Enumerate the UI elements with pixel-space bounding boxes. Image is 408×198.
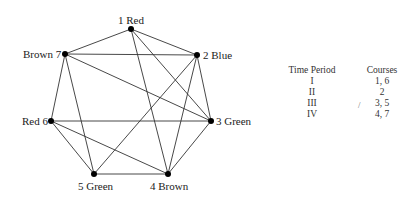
period-cell: II — [272, 87, 352, 98]
table-row: II 2 — [272, 87, 408, 98]
edge-2-3 — [197, 55, 211, 121]
node-3 — [208, 118, 214, 124]
node-6 — [48, 118, 54, 124]
edge-6-4 — [51, 121, 168, 174]
node-5 — [91, 171, 97, 177]
graph-nodes — [48, 26, 214, 177]
courses-cell: 2 — [352, 87, 408, 98]
node-7 — [62, 51, 68, 57]
table-row: III 3, 5 — [272, 98, 408, 109]
node-1 — [128, 26, 134, 32]
header-courses: Courses — [352, 65, 408, 76]
node-label-1: 1 Red — [118, 14, 144, 26]
period-cell: III — [272, 98, 352, 109]
graph-edges — [51, 29, 211, 174]
node-label-7: Brown 7 — [23, 48, 61, 60]
table-row: I 1, 6 — [272, 76, 408, 87]
edge-7-6 — [51, 54, 65, 121]
edge-2-5 — [94, 55, 197, 174]
table-header-row: Time Period Courses — [272, 65, 408, 76]
courses-cell: 4, 7 — [352, 109, 408, 120]
node-label-2: 2 Blue — [203, 49, 232, 61]
node-label-3: 3 Green — [216, 115, 251, 127]
node-4 — [165, 171, 171, 177]
node-2 — [194, 52, 200, 58]
courses-cell: 1, 6 — [352, 76, 408, 87]
edge-1-7 — [65, 29, 131, 54]
header-time-period: Time Period — [272, 65, 352, 76]
schedule-table: Time Period Courses I 1, 6 II 2 III 3, 5… — [272, 65, 408, 120]
edge-7-2 — [65, 54, 197, 55]
node-label-4: 4 Brown — [150, 180, 188, 192]
period-cell: IV — [272, 109, 352, 120]
table-row: IV 4, 7 — [272, 109, 408, 120]
node-label-5: 5 Green — [78, 180, 113, 192]
node-label-6: Red 6 — [22, 115, 48, 127]
annotation-mark: / — [358, 100, 361, 110]
edge-1-2 — [131, 29, 197, 55]
period-cell: I — [272, 76, 352, 87]
graph-coloring-diagram — [0, 0, 260, 198]
